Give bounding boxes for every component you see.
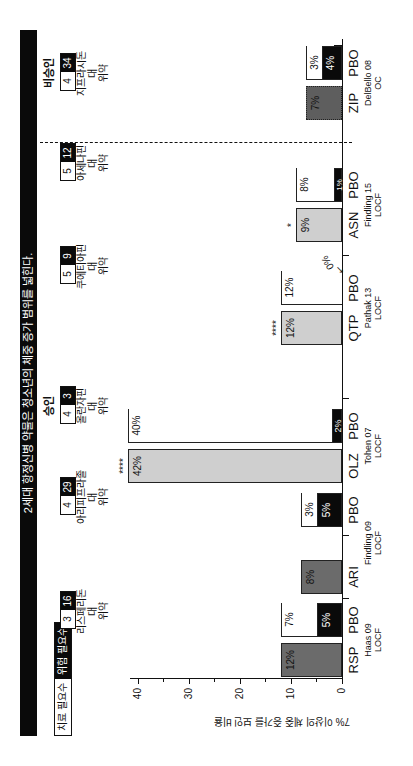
- group-olz-header: 43 올란자핀대위약: [60, 361, 109, 451]
- group-rsp-header: 316 리스페리돈대위약: [60, 566, 109, 656]
- bar-olz: 42%: [128, 449, 342, 483]
- x-label-pbo: PBO: [346, 406, 361, 446]
- bar-ari: 8%: [301, 560, 342, 594]
- nn-box: 316: [60, 591, 76, 629]
- bar-pbo-haas: 5%: [317, 603, 342, 637]
- bar-pbo-tohen: 2%: [332, 409, 342, 443]
- group-qtp-header: 59 쿠에티아핀대위약: [60, 221, 109, 311]
- group-separator: [342, 255, 349, 256]
- x-label-qtp: QTP: [346, 308, 361, 348]
- study-label: Tohen 07LOCF: [363, 401, 383, 491]
- drug-caption: 아리피프라졸대위약: [76, 452, 109, 542]
- study-label: Findling 15LOCF: [363, 160, 383, 250]
- bar-diff-findling15: 8%: [296, 168, 337, 202]
- bar-diff-delbello: 3%: [306, 46, 322, 80]
- section-approved-label: 승인: [40, 376, 56, 436]
- drug-caption: 리스페리돈대위약: [76, 566, 109, 656]
- bar-pbo-delbello: 4%: [322, 46, 342, 80]
- bar-pbo-findling15: 1%: [334, 168, 342, 202]
- y-tick: [291, 679, 292, 684]
- y-tick-minor: [316, 679, 317, 682]
- x-label-pbo: PBO: [346, 600, 361, 640]
- group-separator: [342, 398, 349, 399]
- y-tick-minor: [163, 679, 164, 682]
- group-asn-header: 512 아세나핀대위약: [60, 118, 109, 208]
- study-label: Haas 09LOCF: [363, 595, 383, 685]
- nn-box: 59: [60, 246, 76, 284]
- bar-zip: 7%: [306, 86, 342, 120]
- approval-divider: [40, 142, 352, 143]
- y-tick: [240, 679, 241, 684]
- y-tick-minor: [265, 679, 266, 682]
- y-tick-label: 0: [336, 688, 347, 708]
- drug-caption: 지프라시돈대위약: [76, 28, 109, 118]
- x-label-pbo: PBO: [346, 43, 361, 83]
- drug-caption: 쿠에티아핀대위약: [76, 221, 109, 311]
- study-label: DelBello 08OC: [363, 38, 383, 128]
- bar-rsp: 12%: [281, 643, 342, 677]
- x-label-pbo: PBO: [346, 165, 361, 205]
- y-tick-label: 30: [183, 688, 194, 708]
- y-tick-label: 20: [234, 688, 245, 708]
- legend-nnt: 치료 필요수: [55, 679, 71, 735]
- x-label-olz: OLZ: [346, 446, 361, 486]
- x-label-rsp: RSP: [346, 640, 361, 680]
- x-label-pbo: PBO: [346, 490, 361, 530]
- x-axis: [342, 39, 343, 679]
- y-axis-label: 7% 이상의 체중 증가를 보인 비율: [214, 715, 350, 730]
- drug-caption: 아세나핀대위약: [76, 118, 109, 208]
- section-unapproved-label: 비승인: [40, 43, 56, 103]
- study-label: Findling 09LOCF: [363, 498, 383, 588]
- study-label: Pathak 13LOCF: [363, 263, 383, 353]
- x-label-zip: ZIP: [346, 83, 361, 123]
- y-tick-label: 10: [285, 688, 296, 708]
- bar-diff-tohen: 40%: [128, 409, 332, 443]
- y-tick: [138, 679, 139, 684]
- group-zip-header: 434 지프라시돈대위약: [60, 28, 109, 118]
- bar-asn: 9%: [296, 208, 342, 242]
- group-ari-header: 429 아리피프라졸대위약: [60, 452, 109, 542]
- drug-caption: 올란자핀대위약: [76, 361, 109, 451]
- chart-canvas: 2세대 항정신병 약물은 청소년의 체중 증가 범위를 넓힌다. 승인 비승인 …: [0, 0, 413, 766]
- nn-box: 512: [60, 143, 76, 181]
- bar-diff-haas: 7%: [281, 603, 317, 637]
- x-label-pbo: PBO: [346, 268, 361, 308]
- x-label-ari: ARI: [346, 557, 361, 597]
- chart-title: 2세대 항정신병 약물은 청소년의 체중 증가 범위를 넓힌다.: [20, 30, 37, 736]
- group-separator: [342, 598, 349, 599]
- y-tick-minor: [214, 679, 215, 682]
- nn-box: 434: [60, 53, 76, 91]
- nn-box: 43: [60, 386, 76, 424]
- group-separator: [342, 535, 349, 536]
- bar-pbo-findling09: 5%: [317, 493, 342, 527]
- x-label-asn: ASN: [346, 205, 361, 245]
- bar-diff-pathak: 12%: [281, 271, 342, 305]
- y-axis: [130, 678, 343, 679]
- bar-diff-findling09: 3%: [301, 493, 317, 527]
- y-tick-label: 40: [132, 688, 143, 708]
- arrow-icon: ↙: [334, 266, 345, 274]
- y-tick: [342, 679, 343, 684]
- y-tick: [189, 679, 190, 684]
- bar-qtp: 12%: [281, 311, 342, 345]
- nn-box: 429: [60, 477, 76, 515]
